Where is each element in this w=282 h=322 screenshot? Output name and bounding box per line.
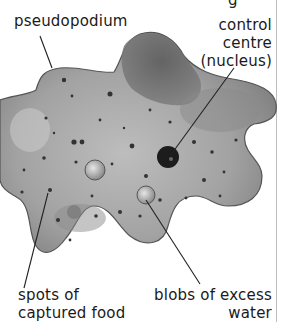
label-text: spots of	[18, 286, 125, 304]
label-text: (nucleus)	[201, 52, 272, 70]
label-text: pseudopodium	[14, 12, 128, 30]
label-text: control	[201, 16, 272, 34]
label-pseudopodium: pseudopodium	[14, 12, 128, 30]
label-text: centre	[201, 34, 272, 52]
amoeba-diagram: g	[0, 0, 282, 322]
label-text: water	[154, 304, 272, 322]
water-vacuole	[137, 186, 155, 204]
label-spots-of-food: spots of captured food	[18, 286, 125, 322]
nucleus	[157, 146, 179, 168]
water-vacuole	[85, 160, 105, 180]
label-control-centre: control centre (nucleus)	[201, 16, 272, 70]
label-text: captured food	[18, 304, 125, 322]
label-blobs-of-water: blobs of excess water	[154, 286, 272, 322]
label-text: blobs of excess	[154, 286, 272, 304]
